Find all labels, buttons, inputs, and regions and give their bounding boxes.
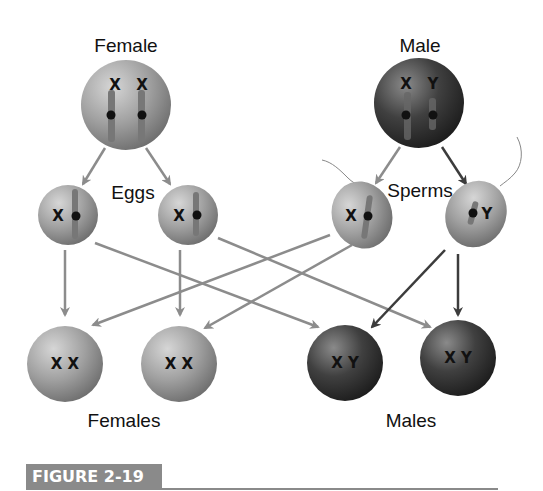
- centromere-dot: [107, 111, 116, 120]
- centromere-dot: [402, 111, 411, 120]
- arrow-female-to-egg1: [83, 148, 105, 184]
- offspring-label: X X: [51, 355, 80, 373]
- egg-cell: X: [158, 185, 218, 245]
- chromosome-label: X: [173, 207, 185, 225]
- offspring-label: X X: [165, 355, 194, 373]
- chromosome-label: X: [52, 207, 64, 225]
- sex-determination-diagram: Female Male Eggs Sperms Females Males X …: [0, 0, 543, 491]
- arrow-male-to-sperm-y: [442, 147, 466, 184]
- male-parent-cell: X Y: [374, 58, 464, 148]
- female-parent-cell: X X: [81, 60, 171, 150]
- centromere-dot: [364, 212, 373, 221]
- figure-label: FIGURE 2-19: [26, 464, 162, 490]
- figure-rule: [162, 488, 498, 490]
- label-male: Male: [399, 35, 440, 56]
- arrow-sperm-x-to-female2: [205, 245, 352, 328]
- offspring-label: X Y: [444, 349, 473, 367]
- label-females: Females: [88, 410, 161, 431]
- chromosome-label: X: [400, 75, 412, 93]
- chromosome-label: X: [109, 76, 121, 94]
- offspring-female-1: X X: [27, 326, 103, 402]
- offspring-male-1: X Y: [307, 325, 383, 401]
- centromere-dot: [138, 111, 147, 120]
- arrow-male-to-sperm-x: [376, 147, 400, 183]
- sperm-cell-x: X: [322, 160, 402, 257]
- label-males: Males: [386, 410, 437, 431]
- offspring-male-2: X Y: [420, 320, 496, 396]
- chromosome-label: Y: [427, 75, 440, 93]
- sperm-tail: [500, 137, 521, 186]
- label-female: Female: [94, 35, 157, 56]
- centromere-dot: [193, 211, 202, 220]
- offspring-label: X Y: [331, 354, 360, 372]
- egg-cell: X: [38, 185, 98, 245]
- chromosome-label: X: [136, 76, 148, 94]
- label-eggs: Eggs: [111, 182, 154, 203]
- centromere-dot: [72, 212, 81, 221]
- arrow-female-to-egg2: [146, 148, 170, 184]
- centromere-dot: [469, 209, 478, 218]
- centromere-dot: [429, 111, 438, 120]
- chromosome-label: X: [345, 207, 357, 225]
- arrow-sperm-y-to-male1: [372, 250, 445, 327]
- arrow-egg2-to-male2: [218, 238, 430, 327]
- offspring-female-2: X X: [141, 326, 217, 402]
- chromosome-label: Y: [481, 205, 494, 223]
- arrow-sperm-x-to-female1: [93, 235, 330, 325]
- arrow-egg1-to-male1: [95, 243, 318, 327]
- label-sperms: Sperms: [387, 180, 452, 201]
